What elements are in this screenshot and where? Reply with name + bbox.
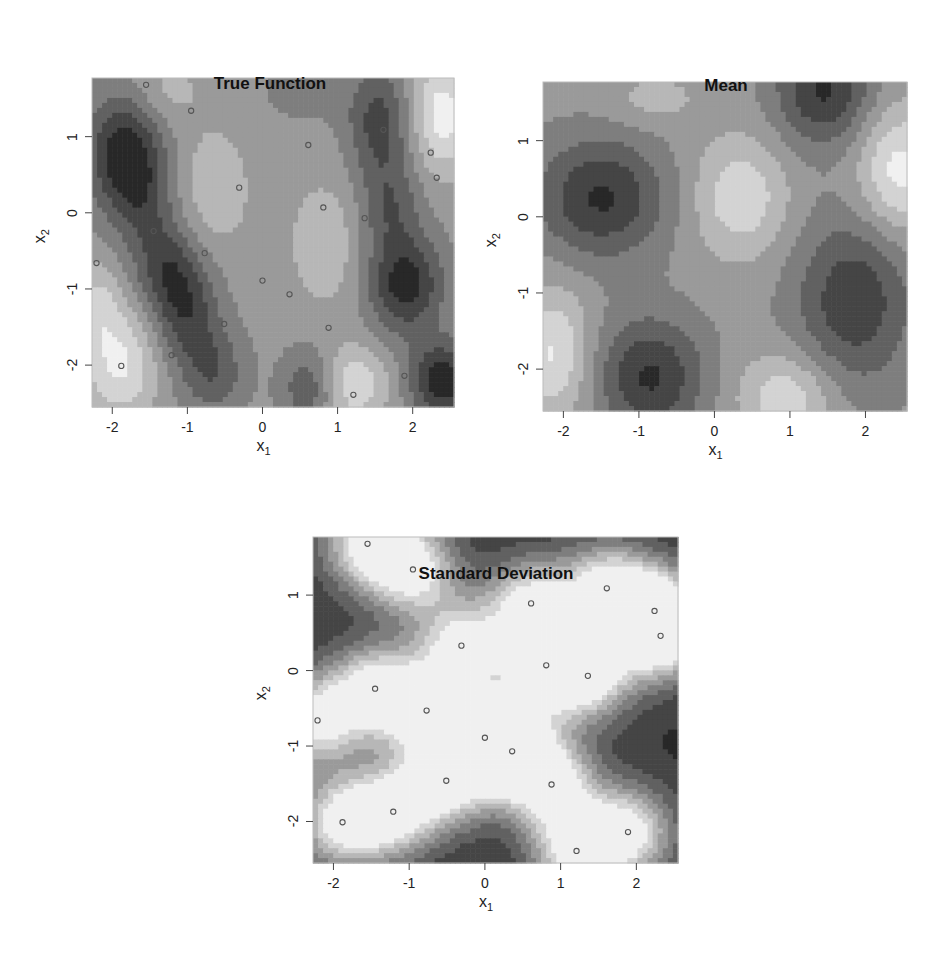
x-tick-label: -2: [327, 875, 339, 891]
heatmap-cells: [313, 537, 679, 864]
x-tick-label: 1: [557, 875, 565, 891]
heatmap-sd: [0, 0, 931, 953]
y-axis-label: x2: [252, 686, 272, 700]
x-axis-label: x1: [479, 893, 493, 913]
panel-title: Standard Deviation: [419, 564, 574, 584]
x-tick-label: 0: [481, 875, 489, 891]
x-tick-label: 2: [632, 875, 640, 891]
x-tick-label: -1: [403, 875, 415, 891]
y-tick-label: -1: [285, 740, 301, 752]
y-tick-label: 0: [285, 667, 301, 675]
y-tick-label: -2: [285, 815, 301, 827]
y-tick-label: 1: [285, 591, 301, 599]
